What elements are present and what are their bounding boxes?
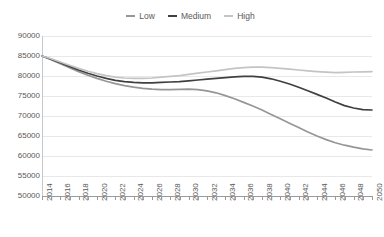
x-axis-tick xyxy=(189,196,190,200)
y-axis-tick-label: 85000 xyxy=(2,52,40,60)
legend-item-high[interactable]: High xyxy=(224,11,254,21)
x-axis-tick xyxy=(115,196,116,200)
x-axis-tick xyxy=(244,196,245,200)
x-axis-tick xyxy=(299,196,300,200)
chart-legend: Low Medium High xyxy=(0,11,381,21)
x-axis-tick xyxy=(143,196,144,200)
legend-swatch-low xyxy=(126,15,135,18)
x-axis-tick xyxy=(271,196,272,200)
x-axis-tick xyxy=(207,196,208,200)
x-axis-tick xyxy=(152,196,153,200)
x-axis-tick xyxy=(88,196,89,200)
y-axis-tick-label: 60000 xyxy=(2,152,40,160)
legend-swatch-medium xyxy=(168,15,177,18)
x-axis-tick xyxy=(125,196,126,200)
series-line-medium xyxy=(42,56,372,110)
x-axis-tick xyxy=(345,196,346,200)
legend-swatch-high xyxy=(224,15,233,18)
x-axis-tick xyxy=(134,196,135,200)
x-axis-tick xyxy=(372,196,373,200)
x-axis-tick xyxy=(253,196,254,200)
x-axis-tick xyxy=(280,196,281,200)
y-axis-tick-label: 80000 xyxy=(2,72,40,80)
y-axis-tick-label: 55000 xyxy=(2,172,40,180)
x-axis-tick xyxy=(290,196,291,200)
x-axis-tick xyxy=(308,196,309,200)
x-axis-tick xyxy=(180,196,181,200)
x-axis-tick xyxy=(170,196,171,200)
x-axis-tick xyxy=(42,196,43,200)
y-axis-tick-label: 75000 xyxy=(2,92,40,100)
x-axis-tick xyxy=(79,196,80,200)
y-axis-tick-label: 65000 xyxy=(2,132,40,140)
series-container xyxy=(42,36,372,196)
series-line-low xyxy=(42,56,372,150)
x-axis-tick xyxy=(106,196,107,200)
x-axis-tick xyxy=(317,196,318,200)
x-axis-tick xyxy=(97,196,98,200)
x-axis-tick xyxy=(216,196,217,200)
x-axis-tick xyxy=(70,196,71,200)
y-axis-tick-label: 50000 xyxy=(2,192,40,200)
x-axis-tick xyxy=(262,196,263,200)
x-axis-tick xyxy=(326,196,327,200)
legend-label-low: Low xyxy=(139,11,155,21)
x-axis-tick xyxy=(225,196,226,200)
y-axis-labels: 9000085000800007500070000650006000055000… xyxy=(0,0,40,237)
x-axis-tick xyxy=(60,196,61,200)
y-axis-tick-label: 90000 xyxy=(2,32,40,40)
x-axis-tick xyxy=(363,196,364,200)
legend-label-high: High xyxy=(237,11,254,21)
x-axis-tick-label: 2050 xyxy=(376,183,384,201)
x-axis-tick xyxy=(354,196,355,200)
x-axis-tick xyxy=(161,196,162,200)
legend-item-low[interactable]: Low xyxy=(126,11,155,21)
x-axis-tick xyxy=(335,196,336,200)
legend-label-medium: Medium xyxy=(181,11,211,21)
x-axis-tick xyxy=(51,196,52,200)
x-axis-tick xyxy=(198,196,199,200)
x-axis-tick xyxy=(235,196,236,200)
y-axis-tick-label: 70000 xyxy=(2,112,40,120)
legend-item-medium[interactable]: Medium xyxy=(168,11,211,21)
